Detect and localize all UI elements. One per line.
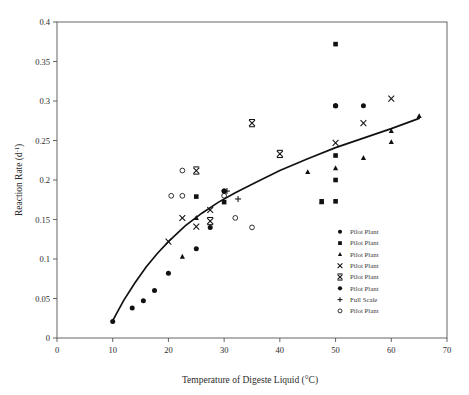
x-tick-label: 0: [55, 345, 59, 355]
x-axis-title: Temperature of Digeste Liquid (°C): [182, 375, 318, 386]
series-7-open-circle: [169, 168, 255, 230]
legend-label: Pilot Plant: [350, 228, 379, 235]
x-axis: 010203040506070: [55, 338, 451, 355]
legend-label: Pilot Plant: [350, 262, 379, 269]
y-tick-label: 0.05: [35, 294, 50, 304]
y-tick-label: 0: [46, 333, 50, 343]
y-tick-label: 0.2: [39, 175, 50, 185]
legend-label: Pilot Plant: [350, 273, 379, 280]
legend-item-0: Pilot Plant: [338, 228, 379, 235]
legend-label: Pilot Plant: [350, 239, 379, 246]
legend-item-3: Pilot Plant: [338, 262, 379, 269]
y-tick-label: 0.1: [39, 254, 50, 264]
svg-text:Reaction Rate (d-1): Reaction Rate (d-1): [13, 144, 25, 216]
scatter-plot-svg: 00.050.10.150.20.250.30.350.4 0102030405…: [0, 0, 469, 395]
plot-frame: [57, 22, 447, 338]
y-axis-title-main: Reaction Rate (d: [14, 152, 25, 216]
data-markers: [110, 42, 422, 324]
y-tick-label: 0.3: [39, 96, 50, 106]
y-tick-label: 0.25: [35, 136, 50, 146]
series-2-filled-triangle: [180, 113, 422, 258]
y-axis: 00.050.10.150.20.250.30.350.4: [35, 17, 57, 343]
legend-item-1: Pilot Plant: [338, 239, 379, 246]
legend-item-2: Pilot Plant: [338, 251, 379, 258]
legend-item-5: Pilot Plant: [338, 285, 379, 292]
x-tick-label: 40: [276, 345, 285, 355]
legend-item-7: Pilot Plant: [338, 307, 379, 314]
series-5-filled-circle: [222, 103, 339, 194]
series-4-bold-x: [193, 120, 283, 225]
legend-label: Full Scale: [350, 296, 377, 303]
y-tick-label: 0.4: [39, 17, 50, 27]
x-tick-label: 10: [108, 345, 117, 355]
legend-label: Pilot Plant: [350, 285, 379, 292]
series-0-filled-diamond: [110, 103, 366, 324]
legend-label: Pilot Plant: [350, 251, 379, 258]
legend-item-6: Full Scale: [338, 296, 378, 303]
y-axis-title: Reaction Rate (d-1): [13, 144, 25, 216]
y-axis-title-tail: ): [14, 144, 25, 147]
x-tick-label: 20: [164, 345, 173, 355]
y-tick-label: 0.15: [35, 215, 50, 225]
x-tick-label: 70: [443, 345, 452, 355]
y-tick-label: 0.35: [35, 57, 50, 67]
chart-figure: 00.050.10.150.20.250.30.350.4 0102030405…: [0, 0, 469, 395]
series-1-filled-square: [194, 42, 338, 205]
chart-legend: Pilot PlantPilot PlantPilot PlantPilot P…: [338, 228, 379, 314]
x-tick-label: 30: [220, 345, 229, 355]
x-tick-label: 50: [331, 345, 340, 355]
legend-item-4: Pilot Plant: [338, 273, 379, 280]
x-tick-label: 60: [387, 345, 396, 355]
legend-label: Pilot Plant: [350, 307, 379, 314]
